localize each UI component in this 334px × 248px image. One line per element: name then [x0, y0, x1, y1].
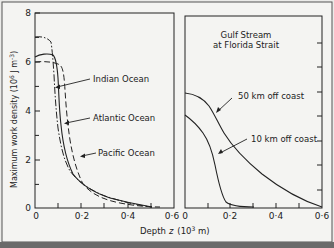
left-y-tick-4: 4 [25, 106, 31, 116]
right-x-tick-0: 0 [182, 211, 188, 221]
svg-text:50 km off coast: 50 km off coast [238, 91, 305, 101]
right-x-tick-0.4: 0·4 [269, 211, 284, 221]
left-x-tick-0: 0 [33, 211, 39, 221]
chart-svg: 0 2 4 6 8 0 0·2 0·4 0·6 Maximum work den… [0, 0, 334, 248]
left-x-tick-0.4: 0·4 [121, 211, 136, 221]
right-x-tick-0.2: 0·2 [223, 211, 237, 221]
right-panel-title-line1: Gulf Stream [221, 30, 272, 40]
svg-text:Indian Ocean: Indian Ocean [93, 74, 149, 84]
svg-text:Pacific Ocean: Pacific Ocean [98, 148, 155, 158]
svg-text:Atlantic Ocean: Atlantic Ocean [93, 113, 155, 123]
left-y-tick-8: 8 [25, 8, 31, 18]
right-x-tick-0.6: 0·6 [315, 211, 330, 221]
left-y-tick-2: 2 [25, 155, 31, 165]
bottom-shadow [0, 242, 334, 248]
left-x-tick-0.6: 0·6 [165, 211, 180, 221]
left-y-tick-0: 0 [25, 203, 31, 213]
outer-frame [2, 2, 332, 242]
left-y-tick-6: 6 [25, 57, 31, 67]
svg-text:10 km off coast: 10 km off coast [251, 134, 318, 144]
left-x-tick-0.2: 0·2 [75, 211, 89, 221]
right-panel-title-line2: at Florida Strait [213, 40, 280, 50]
figure: 0 2 4 6 8 0 0·2 0·4 0·6 Maximum work den… [0, 0, 334, 248]
y-axis-label: Maximum work density (106 J m-3) [8, 51, 19, 188]
